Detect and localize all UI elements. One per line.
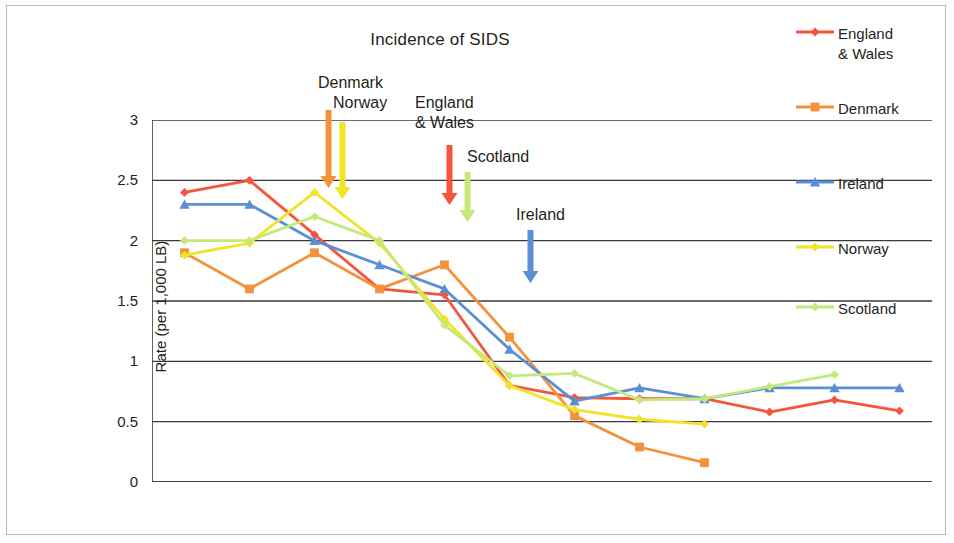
legend-swatch-icon	[795, 25, 835, 39]
y-tick-label: 2	[104, 232, 138, 249]
legend-swatch-icon	[795, 240, 835, 254]
y-tick-label: 1.5	[104, 292, 138, 309]
data-point	[765, 408, 774, 417]
data-point	[310, 248, 319, 257]
data-point	[700, 458, 709, 467]
data-point	[570, 369, 579, 378]
annotation-arrow-icon	[459, 172, 476, 222]
legend-label: Denmark	[838, 99, 899, 119]
y-tick-label: 1	[104, 352, 138, 369]
data-point	[245, 285, 254, 294]
legend-item-norway[interactable]: Norway	[795, 239, 889, 259]
data-point	[440, 260, 449, 269]
data-point	[830, 396, 839, 405]
y-tick-label: 0.5	[104, 413, 138, 430]
legend-label: Norway	[838, 239, 889, 259]
legend-item-england-wales[interactable]: England & Wales	[795, 24, 893, 63]
data-point	[811, 103, 820, 112]
series-line	[185, 204, 900, 401]
legend-label: England & Wales	[838, 24, 893, 63]
annotation-arrow-icon	[441, 145, 458, 205]
legend-swatch-icon	[795, 175, 835, 189]
legend-item-ireland[interactable]: Ireland	[795, 174, 884, 194]
legend-item-scotland[interactable]: Scotland	[795, 299, 896, 319]
annotation-label: Ireland	[516, 205, 565, 225]
legend-swatch-icon	[795, 100, 835, 114]
data-point	[635, 443, 644, 452]
annotation-label: Denmark	[318, 73, 383, 93]
data-point	[505, 333, 514, 342]
legend-item-denmark[interactable]: Denmark	[795, 99, 899, 119]
data-point	[375, 285, 384, 294]
data-point	[811, 28, 820, 37]
y-axis-title: Rate (per 1,000 LB)	[152, 187, 169, 427]
y-tick-label: 3	[104, 111, 138, 128]
y-tick-label: 0	[104, 473, 138, 490]
data-point	[310, 212, 319, 221]
y-tick-label: 2.5	[104, 171, 138, 188]
data-point	[180, 236, 189, 245]
annotation-label: England & Wales	[415, 93, 474, 133]
data-point	[895, 406, 904, 415]
legend-label: Scotland	[838, 299, 896, 319]
data-point	[811, 243, 820, 252]
annotation-label: Scotland	[467, 147, 529, 167]
chart-title: Incidence of SIDS	[275, 30, 605, 50]
legend-label: Ireland	[838, 174, 884, 194]
annotation-label: Norway	[333, 93, 387, 113]
data-point	[635, 396, 644, 405]
data-point	[811, 303, 820, 312]
legend-swatch-icon	[795, 300, 835, 314]
chart-page: Incidence of SIDS 00.511.522.53 Rate (pe…	[0, 0, 954, 543]
data-point	[830, 370, 839, 379]
data-point	[180, 188, 189, 197]
annotation-arrow-icon	[334, 122, 351, 199]
annotation-arrow-icon	[522, 230, 539, 283]
